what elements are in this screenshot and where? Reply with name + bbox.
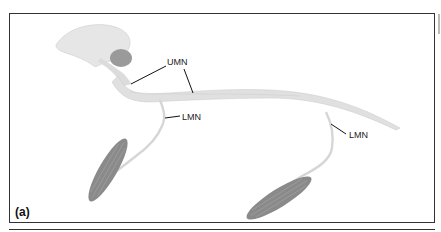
label-umn: UMN <box>167 57 188 67</box>
umn-leader-cord <box>184 69 193 93</box>
cerebellum <box>110 49 132 67</box>
spinal-cord <box>112 76 400 130</box>
label-lmn-lower: LMN <box>349 130 368 140</box>
lmn-leader-upper <box>165 116 180 118</box>
panel-label: (a) <box>15 205 30 219</box>
umn-leader-brainstem <box>131 66 166 84</box>
muscle-left <box>82 134 134 205</box>
motor-neuron-diagram: UMN LMN LMN <box>0 0 441 232</box>
label-lmn-upper: LMN <box>182 112 201 122</box>
muscle-right <box>242 170 316 226</box>
